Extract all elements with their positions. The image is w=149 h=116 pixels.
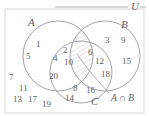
element-5: 5 [26,52,31,61]
element-17: 17 [28,95,37,104]
element-13: 13 [13,95,22,104]
element-18: 18 [101,70,110,79]
label-a-intersect-b: A ∩ B [111,94,134,104]
element-7: 7 [9,73,14,82]
element-6: 6 [88,48,93,57]
label-set-c: C [91,96,98,107]
element-1: 1 [36,40,41,49]
element-3: 3 [105,36,110,45]
element-16: 16 [86,86,95,95]
label-universe-u: U [131,1,139,12]
element-15: 15 [122,57,131,66]
element-4: 4 [53,54,58,63]
element-20: 20 [49,72,58,81]
venn-diagram-figure: A B C U A ∩ B 1 5 4 2 10 20 6 12 18 3 9 … [0,0,149,116]
element-11: 11 [19,84,28,93]
label-set-b: B [121,19,128,30]
element-14: 14 [65,94,74,103]
element-10: 10 [64,58,73,67]
element-12: 12 [95,57,104,66]
element-2: 2 [63,46,68,55]
element-19: 19 [42,100,51,109]
element-9: 9 [121,36,126,45]
label-set-a: A [28,17,35,28]
element-8: 8 [73,84,78,93]
